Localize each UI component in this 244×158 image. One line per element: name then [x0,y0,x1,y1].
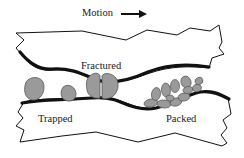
trapped-particles [25,78,76,102]
fractured-label: Fractured [81,61,121,72]
tribology-diagram [0,0,244,158]
trapped-particle [61,85,76,101]
trapped-label: Trapped [38,114,73,125]
trapped-particle [25,78,44,101]
fractured-particle [86,73,118,98]
packed-label: Packed [166,114,196,125]
upper-body [16,25,224,82]
motion-arrow-icon [121,10,147,18]
motion-label: Motion [82,8,113,19]
